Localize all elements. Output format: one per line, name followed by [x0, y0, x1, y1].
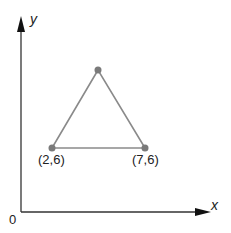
y-axis-arrow-icon [17, 16, 25, 32]
vertex-top [95, 67, 102, 74]
x-axis-label: x [211, 198, 218, 212]
vertex-left-label: (2,6) [38, 153, 65, 166]
origin-label: 0 [9, 213, 16, 226]
vertex-right-label: (7,6) [132, 153, 159, 166]
vertex-left [49, 145, 56, 152]
vertex-right [142, 145, 149, 152]
coordinate-diagram [0, 0, 231, 233]
x-axis-arrow-icon [195, 208, 211, 216]
y-axis-label: y [30, 12, 37, 26]
triangle [52, 70, 145, 148]
